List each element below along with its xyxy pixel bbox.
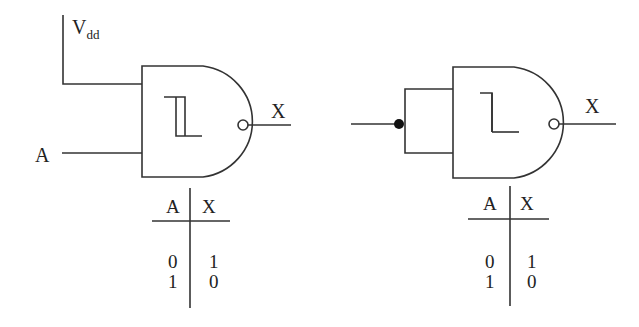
right-nand-gate <box>351 67 616 178</box>
table-cell: 1 <box>527 252 537 271</box>
vdd-label: Vdd <box>72 17 99 37</box>
table-header: A <box>166 197 180 216</box>
table-cell: 0 <box>168 252 178 271</box>
table-header: X <box>520 194 534 213</box>
input-a-label: A <box>35 145 49 165</box>
table-cell: 0 <box>527 272 537 291</box>
right-output-x-label: X <box>585 96 599 116</box>
table-cell: 1 <box>209 252 219 271</box>
table-cell: 1 <box>485 272 495 291</box>
left-output-x-label: X <box>271 101 285 121</box>
table-header: A <box>483 194 497 213</box>
circuit-diagram <box>0 0 639 327</box>
table-cell: 1 <box>168 272 178 291</box>
table-cell: 0 <box>485 252 495 271</box>
junction-dot <box>394 119 404 129</box>
table-header: X <box>202 197 216 216</box>
table-cell: 0 <box>209 272 219 291</box>
